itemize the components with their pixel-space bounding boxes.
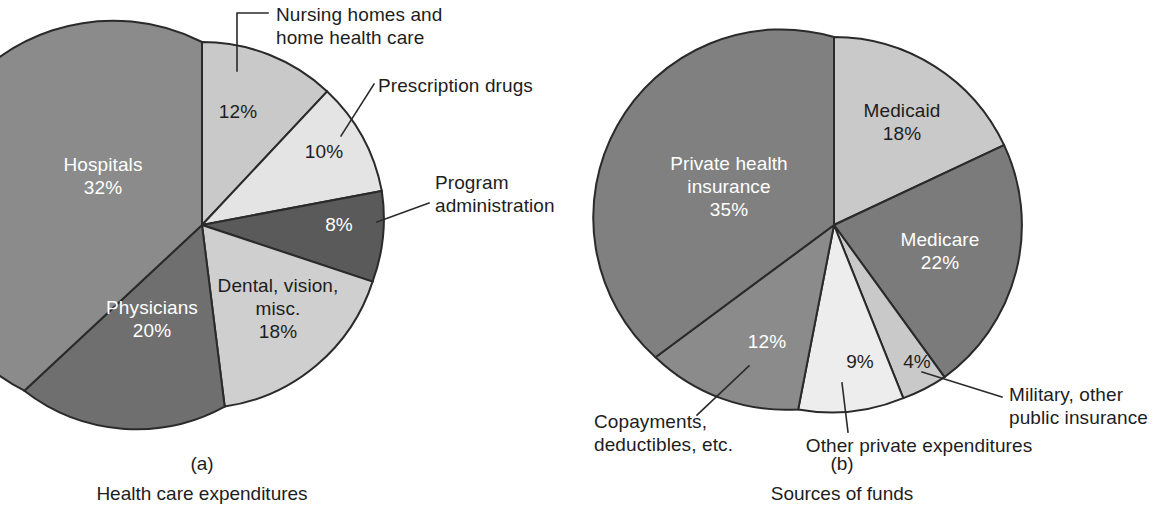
value-label-military-other-public-insurance: 4% <box>903 350 931 373</box>
label-hospitals-text: Hospitals <box>63 153 142 176</box>
value-label-other-private-expenditures: 9% <box>846 350 874 373</box>
label-copayments-deductibles: Copayments, deductibles, etc. <box>594 410 733 456</box>
label-medicare-text: Medicare <box>901 228 980 251</box>
panel-health-care-expenditures: Nursing homes and home health care Presc… <box>0 0 577 514</box>
label-private-health-insurance: Private health insurance 35% <box>670 152 788 221</box>
figure-two-pie-charts: Nursing homes and home health care Presc… <box>0 0 1154 514</box>
value-label-medicare-pct: 22% <box>901 251 980 274</box>
panel-sources-of-funds: Medicaid 18% Medicare 22% Private health… <box>577 0 1154 514</box>
value-label-prescription-drugs-pct: 10% <box>305 140 343 163</box>
label-dental-vision-misc-line2: misc. <box>218 297 339 320</box>
label-program-administration-line1: Program <box>435 171 555 194</box>
label-physicians: Physicians 20% <box>106 296 198 342</box>
value-label-nursing-homes-pct: 12% <box>219 100 257 123</box>
label-nursing-homes: Nursing homes and home health care <box>276 3 442 49</box>
label-medicaid: Medicaid 18% <box>864 99 941 145</box>
value-label-private-health-insurance-pct: 35% <box>670 198 788 221</box>
label-prescription-drugs: Prescription drugs <box>378 74 533 97</box>
label-prescription-drugs-text: Prescription drugs <box>378 74 533 97</box>
label-program-administration-line2: administration <box>435 194 555 217</box>
value-label-copayments-deductibles: 12% <box>748 330 786 353</box>
label-copayments-deductibles-line2: deductibles, etc. <box>594 433 733 456</box>
label-military-other-public-insurance-line1: Military, other <box>1009 383 1148 406</box>
panel-b-letter: (b) <box>830 452 853 476</box>
label-military-other-public-insurance: Military, other public insurance <box>1009 383 1148 429</box>
value-label-hospitals-pct: 32% <box>63 176 142 199</box>
label-medicare: Medicare 22% <box>901 228 980 274</box>
label-physicians-text: Physicians <box>106 296 198 319</box>
label-private-health-insurance-line2: insurance <box>670 175 788 198</box>
label-dental-vision-misc-line1: Dental, vision, <box>218 274 339 297</box>
label-private-health-insurance-line1: Private health <box>670 152 788 175</box>
value-label-program-administration-pct: 8% <box>325 213 353 236</box>
value-label-prescription-drugs: 10% <box>305 140 343 163</box>
value-label-other-private-expenditures-pct: 9% <box>846 350 874 373</box>
label-nursing-homes-line1: Nursing homes and <box>276 3 442 26</box>
value-label-medicaid-pct: 18% <box>864 122 941 145</box>
value-label-copayments-deductibles-pct: 12% <box>748 330 786 353</box>
value-label-program-administration: 8% <box>325 213 353 236</box>
label-copayments-deductibles-line1: Copayments, <box>594 410 733 433</box>
label-military-other-public-insurance-line2: public insurance <box>1009 406 1148 429</box>
value-label-military-other-public-insurance-pct: 4% <box>903 350 931 373</box>
value-label-nursing-homes: 12% <box>219 100 257 123</box>
label-dental-vision-misc: Dental, vision, misc. 18% <box>218 274 339 343</box>
value-label-physicians-pct: 20% <box>106 319 198 342</box>
panel-b-title: Sources of funds <box>771 482 914 506</box>
value-label-dental-vision-misc-pct: 18% <box>218 320 339 343</box>
label-nursing-homes-line2: home health care <box>276 26 442 49</box>
label-hospitals: Hospitals 32% <box>63 153 142 199</box>
label-program-administration: Program administration <box>435 171 555 217</box>
label-medicaid-text: Medicaid <box>864 99 941 122</box>
panel-a-title: Health care expenditures <box>96 482 307 506</box>
panel-a-letter: (a) <box>190 452 213 476</box>
